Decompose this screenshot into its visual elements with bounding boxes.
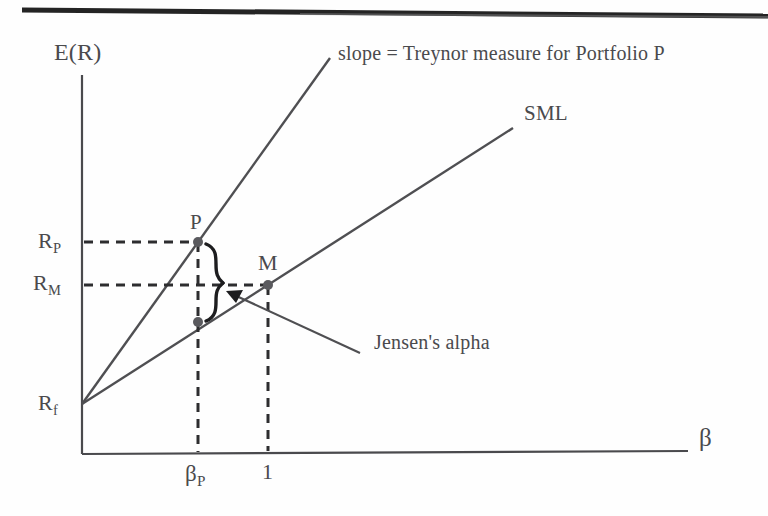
x-tick-beta-p-main: β	[185, 461, 197, 486]
y-tick-label-rp: RP	[38, 230, 61, 252]
y-tick-rf-main: R	[38, 390, 53, 415]
jensen-alpha-arrow	[226, 290, 360, 353]
y-tick-rm-main: R	[33, 270, 48, 295]
y-tick-rp-sub: P	[53, 240, 61, 256]
y-tick-label-rf: Rf	[38, 392, 58, 414]
y-tick-rp-main: R	[38, 228, 53, 253]
jensen-alpha-annotation-label: Jensen's alpha	[374, 332, 490, 352]
sml-annotation-label: SML	[524, 103, 568, 124]
point-label-p: P	[190, 212, 202, 233]
treynor-annotation-label: slope = Treynor measure for Portfolio P	[338, 43, 665, 63]
x-axis-label: β	[699, 425, 712, 450]
x-tick-label-beta-p: βP	[185, 462, 205, 485]
point-label-m: M	[258, 252, 278, 274]
top-rule	[22, 10, 768, 17]
point-marker-p	[193, 237, 203, 247]
y-axis-label: E(R)	[54, 40, 101, 64]
x-tick-beta-p-sub: P	[197, 472, 205, 489]
point-marker-m	[263, 280, 273, 290]
x-axis	[82, 451, 688, 454]
y-tick-label-rm: RM	[33, 272, 61, 294]
x-tick-label-one: 1	[262, 461, 273, 483]
chart-canvas	[0, 0, 768, 516]
y-tick-rf-sub: f	[53, 402, 58, 418]
point-marker-sml-at-beta-p	[193, 317, 203, 327]
security-market-line-figure: E(R) β RP RM Rf βP 1 P M slope = Treynor…	[0, 0, 768, 516]
y-tick-rm-sub: M	[48, 282, 61, 298]
treynor-line	[82, 58, 330, 404]
sml-line	[82, 128, 513, 404]
jensen-alpha-brace	[206, 244, 223, 321]
